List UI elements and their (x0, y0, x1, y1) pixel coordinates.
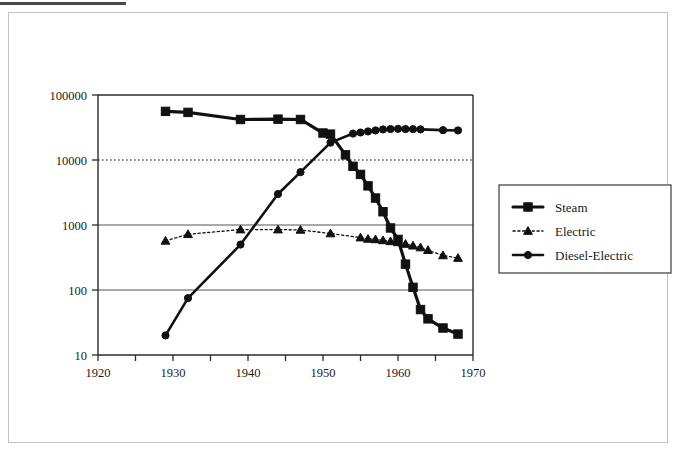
marker-square (401, 260, 409, 268)
x-axis-label-1950: 1950 (311, 366, 336, 380)
marker-circle (237, 241, 244, 248)
marker-square (386, 224, 394, 232)
marker-circle (162, 332, 169, 339)
marker-circle (394, 125, 401, 132)
marker-square (364, 182, 372, 190)
marker-triangle (161, 236, 170, 244)
marker-square (184, 108, 192, 116)
marker-circle (357, 129, 364, 136)
marker-circle (417, 126, 424, 133)
series-electric (161, 225, 462, 261)
marker-square (356, 170, 364, 178)
marker-square (371, 194, 379, 202)
marker-square (274, 115, 282, 123)
marker-square (409, 283, 417, 291)
legend-label-electric: Electric (555, 224, 596, 239)
marker-triangle (424, 246, 433, 254)
marker-circle (439, 127, 446, 134)
y-axis-label-1000: 1000 (62, 219, 87, 233)
x-axis-label-1970: 1970 (461, 366, 486, 380)
y-axis-label-100000: 100000 (50, 89, 88, 103)
marker-circle (349, 130, 356, 137)
marker-circle (364, 128, 371, 135)
marker-square (296, 115, 304, 123)
marker-square (326, 130, 334, 138)
marker-square (416, 305, 424, 313)
y-axis-label-10000: 10000 (56, 154, 87, 168)
legend-label-steam: Steam (555, 200, 588, 215)
marker-circle (454, 127, 461, 134)
chart-legend: SteamElectricDiesel-Electric (499, 185, 671, 273)
series-steam (161, 107, 462, 338)
marker-triangle (296, 226, 305, 234)
y-axis-label-10: 10 (75, 349, 88, 363)
y-axis-label-100: 100 (68, 284, 87, 298)
x-axis-label-1940: 1940 (236, 366, 261, 380)
marker-circle (409, 126, 416, 133)
x-axis-label-1960: 1960 (386, 366, 411, 380)
marker-square (341, 151, 349, 159)
chart-figure: 1920193019401950196019701010010001000010… (0, 0, 684, 459)
marker-square (236, 115, 244, 123)
marker-square (439, 324, 447, 332)
marker-circle (297, 169, 304, 176)
marker-circle (402, 125, 409, 132)
marker-circle (327, 139, 334, 146)
marker-circle (379, 126, 386, 133)
series-line-steam (166, 111, 459, 334)
legend-label-diesel-electric: Diesel-Electric (555, 248, 633, 263)
marker-circle (274, 190, 281, 197)
marker-square (424, 315, 432, 323)
marker-circle (387, 125, 394, 132)
marker-circle (372, 127, 379, 134)
marker-square (161, 107, 169, 115)
marker-square (349, 162, 357, 170)
marker-circle (524, 251, 531, 258)
x-axis-label-1930: 1930 (161, 366, 186, 380)
x-axis-label-1920: 1920 (86, 366, 111, 380)
marker-circle (184, 295, 191, 302)
marker-square (379, 208, 387, 216)
marker-square (454, 330, 462, 338)
marker-square (524, 203, 532, 211)
